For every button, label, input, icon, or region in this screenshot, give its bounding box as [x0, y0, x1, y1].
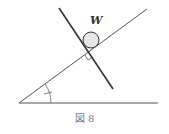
right-angle-marker: [85, 55, 93, 60]
weight-ball: [83, 32, 99, 48]
inclined-plane-line: [19, 9, 147, 103]
perpendicular-rod: [59, 8, 113, 89]
angle-tick-mark: [44, 92, 52, 94]
figure-caption: 図 8: [0, 110, 169, 125]
weight-label: W: [90, 14, 104, 27]
